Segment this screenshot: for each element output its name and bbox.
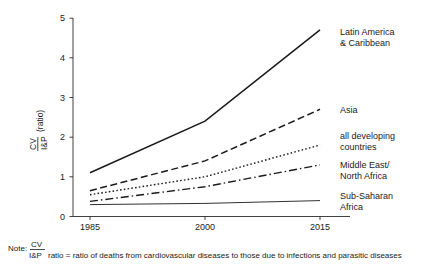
y-axis-title-numerator: CV (28, 138, 38, 150)
chart-figure: 0 1 2 3 4 5 1985 2000 2015 CV I&P (ratio… (0, 0, 423, 276)
series-line-sub-saharan-africa (90, 201, 320, 205)
x-tick-label-1985: 1985 (80, 222, 100, 232)
series-label-sub-saharan-line1: Sub-Saharan (340, 191, 393, 201)
series-label-latin-america-line2: & Caribbean (340, 38, 390, 48)
y-tick-label-1: 1 (60, 172, 65, 182)
x-tick-label-2015: 2015 (310, 222, 330, 232)
note-body: ratio = ratio of deaths from cardiovascu… (48, 251, 402, 260)
note-prefix: Note: (8, 244, 27, 253)
note-fraction: CV I&P (29, 240, 45, 260)
y-tick-label-4: 4 (60, 53, 65, 63)
series-label-sub-saharan-line2: Africa (340, 202, 363, 212)
x-tick-label-2000: 2000 (195, 222, 215, 232)
series-label-middle-east-line2: North Africa (340, 171, 387, 181)
y-axis-title-suffix: (ratio) (35, 110, 45, 132)
y-axis-ticks (70, 18, 74, 216)
series-label-all-developing-line2: countries (340, 142, 377, 152)
series-label-all-developing-line1: all developing (340, 131, 395, 141)
line-chart: 0 1 2 3 4 5 1985 2000 2015 CV I&P (ratio… (0, 0, 423, 276)
y-axis-title-denominator: I&P (39, 136, 49, 150)
note-fraction-numerator: CV (31, 240, 43, 249)
y-tick-label-0: 0 (60, 212, 65, 222)
y-tick-label-5: 5 (60, 13, 65, 23)
y-axis-title: CV I&P (ratio) (28, 110, 49, 151)
series-label-middle-east-line1: Middle East/ (340, 160, 390, 170)
series-line-middle-east-north-africa (90, 165, 320, 202)
note-fraction-denominator: I&P (29, 251, 42, 260)
series-line-latin-america-caribbean (90, 30, 320, 173)
series-label-latin-america-line1: Latin America (340, 27, 395, 37)
x-axis-ticks (90, 217, 320, 221)
series-label-asia-line1: Asia (340, 105, 358, 115)
y-tick-label-3: 3 (60, 93, 65, 103)
y-tick-label-2: 2 (60, 132, 65, 142)
